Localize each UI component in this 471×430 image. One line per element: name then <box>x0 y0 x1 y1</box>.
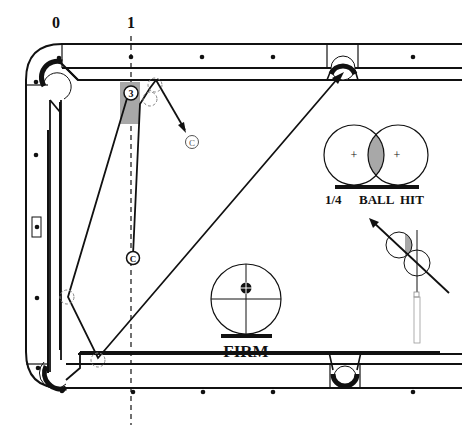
diamond-label-1: 1 <box>127 14 135 31</box>
ghost-ball-object <box>143 92 157 106</box>
svg-text:+: + <box>394 148 401 162</box>
cue-ball-final-position: C <box>186 136 199 149</box>
cue-ball-deflection-path <box>156 80 185 130</box>
svg-text:3: 3 <box>129 88 134 99</box>
object-ball-3: 3 <box>124 86 138 100</box>
table-rail-line <box>48 68 462 373</box>
pool-shot-diagram: 0 1 3 C C + + <box>0 0 471 430</box>
ball-hit-illustration: + + 1/4 BALL HIT <box>324 125 428 207</box>
svg-text:+: + <box>351 148 358 162</box>
ball-hit-fraction: 1/4 <box>325 192 342 207</box>
speed-label: FIRM <box>223 342 268 361</box>
svg-text:C: C <box>130 254 137 264</box>
cue-ball: C <box>127 252 140 265</box>
tip-position-illustration: FIRM <box>211 264 281 361</box>
arrowhead-deflection <box>178 122 186 133</box>
ghost-ball-left-rail <box>60 290 74 304</box>
aim-illustration <box>369 218 449 343</box>
pocket-bottom-side <box>329 352 361 388</box>
ball-hit-text-hit: HIT <box>400 192 424 207</box>
diamond-label-0: 0 <box>52 14 60 31</box>
svg-text:C: C <box>189 138 195 148</box>
cue-ball-bank-path <box>68 78 338 358</box>
ball-hit-text-ball: BALL <box>359 192 395 207</box>
